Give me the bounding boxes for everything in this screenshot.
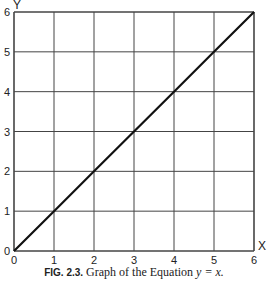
y-axis-label: Y — [13, 0, 21, 12]
caption-text: Graph of the Equation — [86, 265, 193, 279]
y-tick-label: 0 — [4, 245, 10, 257]
y-tick-label: 3 — [4, 126, 10, 138]
y-tick-label: 4 — [4, 86, 10, 98]
caption-equation: y = x. — [196, 265, 224, 279]
x-axis-label: X — [258, 239, 266, 253]
y-tick-label: 2 — [4, 165, 10, 177]
chart: 01234560123456 X Y — [0, 0, 268, 284]
figure-number: FIG. 2.3. — [44, 267, 83, 278]
y-tick-label: 6 — [4, 6, 10, 18]
y-tick-label: 1 — [4, 205, 10, 217]
figure-caption: FIG. 2.3. Graph of the Equation y = x. — [0, 265, 268, 280]
y-tick-label: 5 — [4, 46, 10, 58]
